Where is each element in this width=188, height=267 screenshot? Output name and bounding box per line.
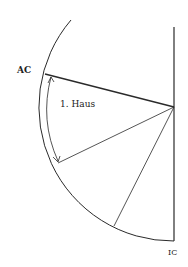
house-span-arrow: [47, 77, 58, 161]
horizon-arc: [39, 20, 174, 241]
ic-label: IC: [168, 248, 177, 257]
cusp-2-line: [58, 107, 174, 163]
house-label: 1. Haus: [60, 99, 95, 109]
house-diagram: AC 1. Haus IC: [0, 0, 188, 267]
cusp-3-line: [114, 107, 174, 226]
ac-label: AC: [16, 65, 31, 75]
